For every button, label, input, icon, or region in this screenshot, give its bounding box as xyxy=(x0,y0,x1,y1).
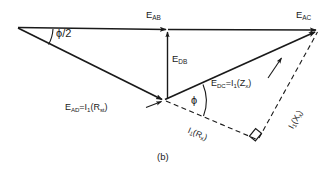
label-e-dc: EDC=I1(Zx) xyxy=(211,79,251,89)
vector-e-ad xyxy=(18,28,162,99)
leader-e-ad xyxy=(146,102,162,108)
phasor-diagram-figure: EAB EAC EDB ϕ/2 ϕ EDC=I1(Zx) EAD=I1(Rst)… xyxy=(0,0,336,170)
vector-e-ab xyxy=(18,28,166,30)
dashed-i1-rx xyxy=(166,101,256,139)
vector-e-dc xyxy=(165,32,315,100)
label-angle-phi-half: ϕ/2 xyxy=(56,28,71,39)
label-e-ab: EAB xyxy=(146,10,161,21)
label-e-ad: EAD=I1(Rst) xyxy=(65,103,107,113)
angle-arc-phi xyxy=(203,85,206,117)
leader-e-dc xyxy=(268,58,282,78)
angle-arc-phi-half xyxy=(49,29,54,45)
phasor-diagram-canvas xyxy=(0,0,336,170)
figure-caption: (b) xyxy=(157,152,169,162)
vector-e-ac-top xyxy=(168,30,316,31)
label-e-db: EDB xyxy=(172,54,187,65)
label-e-ac: EAC xyxy=(296,10,311,21)
label-angle-phi: ϕ xyxy=(191,95,197,106)
